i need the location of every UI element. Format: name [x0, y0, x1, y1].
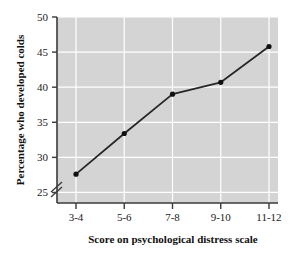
x-tick-label: 3-4: [69, 211, 84, 223]
y-tick-label: 25: [37, 186, 49, 198]
x-axis-title: Score on psychological distress scale: [88, 233, 258, 245]
plot-area-background: [57, 17, 278, 203]
line-chart: 253035404550 3-45-67-89-1011-12 Score on…: [0, 0, 299, 253]
y-tick-label: 40: [37, 81, 49, 93]
y-axis-title: Percentage who developed colds: [14, 34, 26, 185]
y-tick-label: 50: [37, 11, 49, 23]
x-tick-label: 7-8: [165, 211, 180, 223]
y-tick-label: 45: [37, 46, 49, 58]
x-axis-ticks: 3-45-67-89-1011-12: [69, 203, 282, 223]
data-point: [266, 44, 271, 49]
data-point: [170, 92, 175, 97]
data-point: [218, 80, 223, 85]
y-tick-label: 35: [37, 116, 49, 128]
y-axis-ticks: 253035404550: [37, 11, 57, 198]
chart-figure: 253035404550 3-45-67-89-1011-12 Score on…: [0, 0, 299, 253]
x-tick-label: 9-10: [211, 211, 232, 223]
x-tick-label: 11-12: [256, 211, 281, 223]
data-point: [73, 172, 78, 177]
data-point: [122, 131, 127, 136]
x-tick-label: 5-6: [117, 211, 132, 223]
y-tick-label: 30: [37, 151, 49, 163]
